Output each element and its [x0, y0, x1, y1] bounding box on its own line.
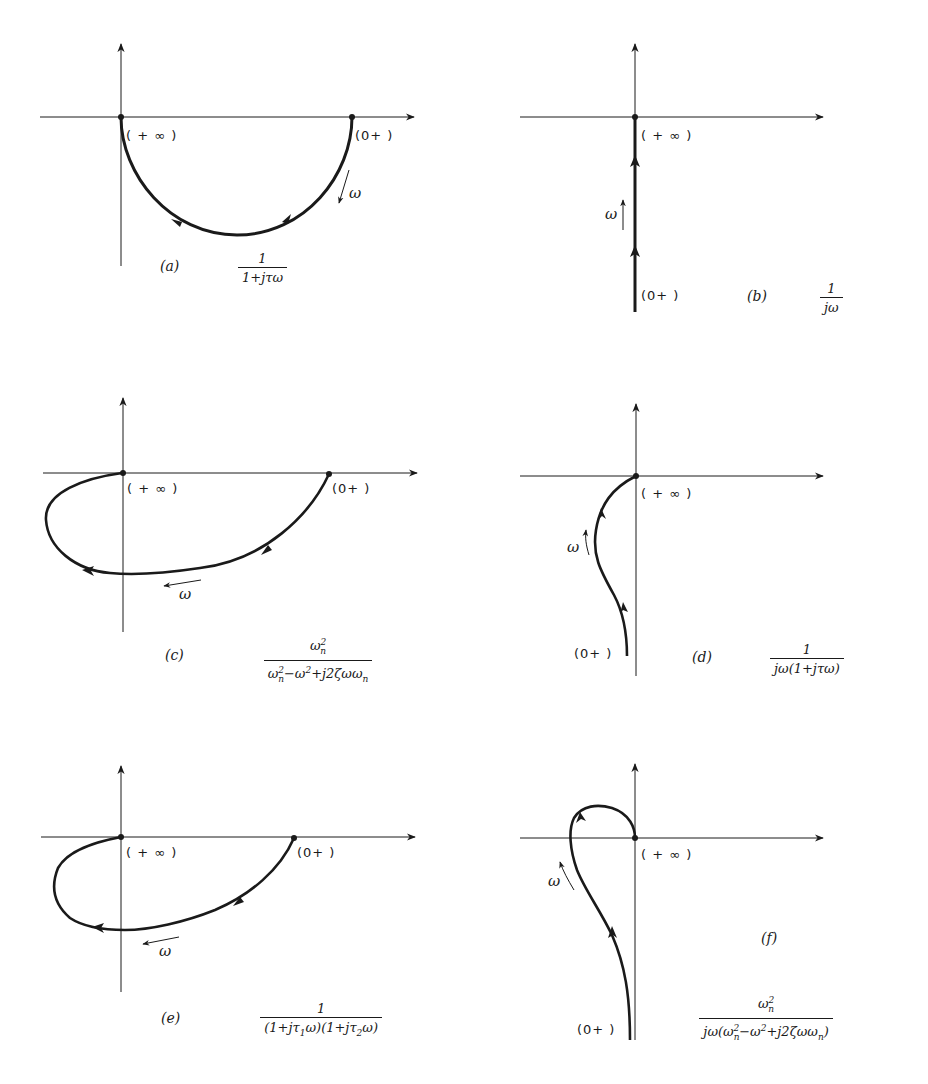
- numerator: 1: [254, 250, 270, 267]
- caption-d: (d): [692, 649, 712, 665]
- transfer-function-e: 1 (1+jτ1ω)(1+jτ2ω): [237, 1000, 405, 1042]
- point-origin: [633, 473, 639, 479]
- transfer-function-f: ω2n jω(ωn2−ω2+j2ζωωn): [668, 992, 864, 1046]
- transfer-function-a: 1 1+jτω: [238, 250, 287, 286]
- point-origin: [118, 114, 124, 120]
- caption-b: (b): [747, 288, 767, 304]
- point-start: [349, 114, 355, 120]
- numerator: ω2n: [668, 992, 864, 1018]
- nyquist-curve: [570, 806, 635, 1040]
- label-omega: ω: [605, 205, 617, 223]
- numerator: ω2n: [240, 634, 396, 660]
- label-zero-plus: (0+ ): [574, 646, 612, 661]
- nyquist-curve: [46, 473, 329, 574]
- label-zero-plus: (0+ ): [332, 481, 370, 496]
- label-omega: ω: [159, 942, 171, 960]
- label-plus-infinity: ( + ∞ ): [127, 481, 178, 496]
- caption-a: (a): [160, 258, 179, 274]
- label-plus-infinity: ( + ∞ ): [641, 128, 692, 143]
- denominator: 1+jτω: [238, 267, 287, 286]
- numerator: 1: [823, 280, 839, 297]
- polar-plots-figure: [0, 0, 928, 1084]
- omega-direction-arrow: [560, 862, 574, 890]
- label-plus-infinity: ( + ∞ ): [126, 128, 177, 143]
- caption-f: (f): [761, 930, 777, 946]
- denominator: (1+jτ1ω)(1+jτ2ω): [260, 1017, 382, 1042]
- point-start: [291, 835, 297, 841]
- label-plus-infinity: ( + ∞ ): [641, 486, 692, 501]
- transfer-function-c: ω2n ωn2−ω2+j2ζωωn: [240, 634, 396, 688]
- omega-direction-arrow: [339, 170, 349, 203]
- point-origin: [118, 834, 124, 840]
- numerator: 1: [237, 1000, 405, 1017]
- caption-c: (c): [165, 647, 184, 663]
- label-omega: ω: [179, 585, 191, 603]
- label-omega: ω: [349, 184, 361, 202]
- panel-c: [43, 398, 417, 632]
- panel-d: [520, 404, 823, 676]
- caption-e: (e): [161, 1010, 180, 1026]
- denominator: jω(1+jτω): [770, 658, 844, 677]
- numerator: 1: [799, 641, 815, 658]
- label-omega: ω: [567, 538, 579, 556]
- label-plus-infinity: ( + ∞ ): [641, 847, 692, 862]
- point-origin: [632, 835, 638, 841]
- point-origin: [632, 114, 638, 120]
- point-start: [326, 471, 332, 477]
- direction-arrowhead: [620, 602, 628, 614]
- label-zero-plus: (0+ ): [641, 288, 679, 303]
- denominator: jω(ωn2−ω2+j2ζωωn): [699, 1018, 832, 1046]
- label-zero-plus: (0+ ): [577, 1022, 615, 1037]
- transfer-function-b: 1 jω: [820, 280, 843, 316]
- panel-a: [40, 44, 414, 266]
- omega-direction-arrow: [586, 530, 589, 555]
- denominator: jω: [820, 297, 843, 316]
- denominator: ωn2−ω2+j2ζωωn: [264, 660, 373, 688]
- label-omega: ω: [548, 872, 560, 890]
- panel-e: [41, 766, 415, 992]
- panel-b: [520, 44, 823, 312]
- label-plus-infinity: ( + ∞ ): [126, 845, 177, 860]
- point-origin: [120, 470, 126, 476]
- transfer-function-d: 1 jω(1+jτω): [770, 641, 844, 677]
- nyquist-curve: [595, 476, 636, 656]
- label-zero-plus: (0+ ): [297, 845, 335, 860]
- label-zero-plus: (0+ ): [355, 128, 393, 143]
